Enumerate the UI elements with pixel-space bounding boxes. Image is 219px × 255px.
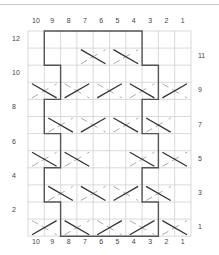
- knitting-chart-grid: [0, 0, 219, 255]
